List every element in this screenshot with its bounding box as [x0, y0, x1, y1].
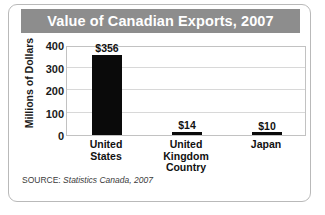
plot-region: Millions of Dollars 4003002001000 $356$1… — [9, 35, 312, 175]
source-label: SOURCE: — [22, 175, 61, 185]
y-axis-tick-label: 300 — [46, 63, 64, 74]
chart-title-bar: Value of Canadian Exports, 2007 — [21, 9, 300, 33]
chart-title: Value of Canadian Exports, 2007 — [47, 13, 273, 29]
chart-card: Value of Canadian Exports, 2007 Millions… — [8, 4, 311, 202]
x-axis-category-label: UnitedStates — [66, 139, 146, 162]
bar[interactable] — [172, 132, 202, 135]
category-label-line: United — [66, 139, 146, 151]
bar-value-label: $356 — [78, 43, 136, 54]
bar[interactable] — [92, 55, 122, 135]
x-axis-title: Country — [66, 162, 306, 174]
bar-value-label: $10 — [238, 121, 296, 132]
bar-group[interactable]: $10 — [252, 47, 282, 135]
x-axis-category-label: Japan — [226, 139, 306, 151]
category-label-line: States — [66, 151, 146, 163]
y-axis-tick-labels: 4003002001000 — [31, 46, 64, 136]
plot-frame: $356$14$10 — [66, 46, 306, 136]
y-axis-tick-label: 100 — [46, 108, 64, 119]
category-label-line: United — [146, 139, 226, 151]
y-axis-tick-label: 200 — [46, 86, 64, 97]
bar-group[interactable]: $356 — [92, 47, 122, 135]
y-axis-tick-label: 400 — [46, 41, 64, 52]
x-axis-category-label: UnitedKingdom — [146, 139, 226, 162]
source-attribution: Statistics Canada, 2007 — [63, 175, 153, 185]
bar[interactable] — [252, 132, 282, 135]
bars-layer: $356$14$10 — [67, 47, 305, 135]
category-label-line: Japan — [226, 139, 306, 151]
source-note: SOURCE: Statistics Canada, 2007 — [22, 175, 153, 186]
bar-value-label: $14 — [158, 120, 216, 131]
y-axis-tick-label: 0 — [58, 131, 64, 142]
bar-group[interactable]: $14 — [172, 47, 202, 135]
